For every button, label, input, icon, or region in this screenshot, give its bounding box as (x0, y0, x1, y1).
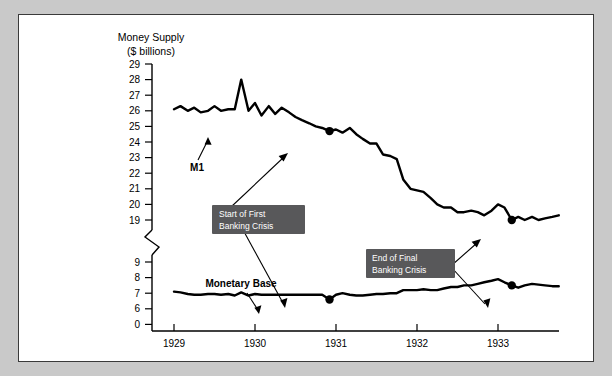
y-tick-label: 24 (129, 137, 141, 148)
monetary-base-series-label: Monetary Base (205, 278, 277, 289)
y-axis-origin-label: 0 (134, 319, 140, 330)
end-crisis-callout-line2: Banking Crisis (372, 265, 426, 275)
x-tick-label: 1929 (163, 338, 186, 349)
end-crisis-leader-m1 (452, 243, 477, 265)
y-axis-title-line2: ($ billions) (127, 45, 175, 57)
y-tick-label: 7 (134, 288, 140, 299)
chart-figure: Money Supply ($ billions) 29 28 27 26 (18, 14, 594, 362)
y-axis-title-line1: Money Supply (118, 31, 185, 43)
y-tick-label: 6 (134, 303, 140, 314)
m1-series-label: M1 (190, 162, 204, 173)
y-tick-label: 19 (129, 215, 141, 226)
y-tick-label: 29 (129, 59, 141, 70)
y-tick-label: 28 (129, 74, 141, 85)
m1-end-crisis-marker (508, 216, 516, 224)
start-crisis-leader-m1 (231, 157, 284, 207)
y-tick-label: 21 (129, 183, 141, 194)
y-tick-label: 20 (129, 199, 141, 210)
x-tick-group (174, 324, 498, 331)
start-crisis-callout-line1: Start of First (219, 209, 266, 219)
m1-label-arrowhead (205, 137, 212, 145)
y-tick-labels-upper: 29 28 27 26 25 24 23 22 21 20 19 (129, 59, 141, 226)
end-crisis-callout-line1: End of Final (372, 253, 417, 263)
y-tick-label: 25 (129, 121, 141, 132)
x-tick-label: 1933 (487, 338, 510, 349)
base-start-crisis-marker (325, 295, 333, 303)
y-tick-label: 9 (134, 257, 140, 268)
y-tick-label: 22 (129, 168, 141, 179)
y-tick-label: 26 (129, 105, 141, 116)
x-tick-labels: 1929 1930 1931 1932 1933 (163, 338, 510, 349)
y-tick-label: 23 (129, 152, 141, 163)
y-tick-labels-lower: 9 8 7 6 0 (134, 257, 140, 331)
annotation-end-final-banking-crisis[interactable]: End of Final Banking Crisis (366, 239, 490, 308)
base-end-crisis-marker (508, 281, 516, 289)
start-crisis-leader-base (242, 228, 283, 303)
x-tick-label: 1930 (244, 338, 267, 349)
y-tick-group-upper (145, 64, 152, 220)
y-tick-group-lower (145, 262, 152, 324)
y-tick-label: 8 (134, 272, 140, 283)
x-tick-label: 1931 (325, 338, 348, 349)
m1-start-crisis-marker (325, 127, 333, 135)
y-tick-label: 27 (129, 90, 141, 101)
m1-series-line (174, 80, 559, 220)
x-tick-label: 1932 (406, 338, 429, 349)
money-supply-chart: Money Supply ($ billions) 29 28 27 26 (19, 15, 593, 361)
start-crisis-callout-line2: Banking Crisis (219, 221, 273, 231)
y-axis-break-symbol (145, 230, 159, 255)
